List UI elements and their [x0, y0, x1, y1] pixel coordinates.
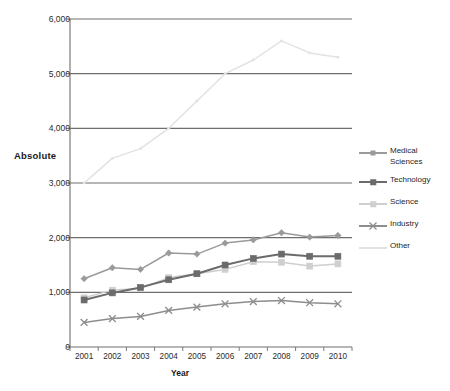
data-point: [307, 253, 313, 259]
legend-item-technology[interactable]: Technology: [358, 175, 450, 189]
data-point: [335, 253, 341, 259]
data-point: [139, 147, 142, 150]
data-point: [166, 277, 172, 283]
legend-item-other[interactable]: Other: [358, 241, 450, 255]
data-point: [81, 297, 87, 303]
legend-key-icon: [358, 175, 388, 189]
x-axis-tick-label: 2007: [244, 352, 262, 361]
data-point: [280, 39, 283, 42]
series-other: [83, 39, 340, 184]
data-point: [81, 275, 87, 281]
data-point: [335, 261, 341, 267]
data-point: [250, 255, 256, 261]
chart-legend: Medical SciencesTechnologyScienceIndustr…: [358, 146, 450, 257]
data-point: [308, 51, 311, 54]
data-point: [307, 263, 313, 269]
data-point: [194, 271, 200, 277]
legend-item-science[interactable]: Science: [358, 197, 450, 211]
data-point: [167, 127, 170, 130]
data-point: [196, 100, 199, 103]
data-point: [279, 251, 285, 257]
legend-diamond-icon: [371, 151, 376, 156]
data-point: [166, 250, 172, 256]
data-point: [224, 72, 227, 75]
y-axis-tick-label: 0: [28, 342, 70, 352]
x-axis-title: Year: [0, 368, 360, 378]
series-industry: [81, 297, 342, 326]
series-line: [84, 41, 338, 183]
legend-label: Technology: [388, 175, 430, 186]
x-axis-tick-label: 2002: [103, 352, 121, 361]
legend-square-icon: [370, 201, 376, 207]
legend-label: Other: [388, 241, 410, 252]
data-point: [252, 59, 255, 62]
x-axis-tick-label: 2006: [216, 352, 234, 361]
x-axis-tick-label: 2008: [272, 352, 290, 361]
data-point: [138, 284, 144, 290]
legend-item-medical-sciences[interactable]: Medical Sciences: [358, 146, 450, 167]
legend-line: [359, 247, 387, 249]
legend-key-icon: [358, 146, 388, 160]
x-axis-tick-label: 2001: [75, 352, 93, 361]
legend-square-icon: [370, 179, 376, 185]
legend-item-industry[interactable]: Industry: [358, 219, 450, 233]
data-point: [137, 266, 143, 272]
legend-label: Industry: [388, 219, 418, 230]
legend-key-icon: [358, 219, 388, 233]
series-technology: [81, 251, 341, 303]
data-point: [194, 251, 200, 257]
data-point: [279, 259, 285, 265]
data-point: [222, 240, 228, 246]
series-science: [81, 259, 341, 301]
line-chart: Absolute 01,0002,0003,0004,0005,0006,000…: [0, 0, 450, 391]
legend-label: Medical Sciences: [388, 146, 450, 167]
legend-key-icon: [358, 241, 388, 255]
y-axis-tick-label: 4,000: [28, 123, 70, 133]
x-axis-tick-label: 2003: [131, 352, 149, 361]
data-point: [109, 265, 115, 271]
legend-x-icon: [369, 222, 377, 230]
data-point: [111, 157, 114, 160]
y-axis-tick-label: 5,000: [28, 69, 70, 79]
data-point: [307, 234, 313, 240]
x-axis-tick-label: 2004: [160, 352, 178, 361]
y-axis-tick-label: 1,000: [28, 287, 70, 297]
y-axis-tick-label: 2,000: [28, 233, 70, 243]
series-line: [84, 254, 338, 300]
x-axis-tick-label: 2005: [188, 352, 206, 361]
data-point: [278, 230, 284, 236]
data-point: [337, 56, 340, 59]
data-point: [109, 290, 115, 296]
legend-label: Science: [388, 197, 418, 208]
y-axis-tick-labels: 01,0002,0003,0004,0005,0006,000: [26, 0, 70, 391]
legend-key-icon: [358, 197, 388, 211]
x-axis-tick-label: 2010: [329, 352, 347, 361]
data-point: [222, 262, 228, 268]
y-axis-tick-label: 6,000: [28, 14, 70, 24]
x-axis-tick-label: 2009: [301, 352, 319, 361]
series-line: [84, 301, 338, 323]
y-axis-tick-label: 3,000: [28, 178, 70, 188]
data-point: [83, 182, 86, 185]
